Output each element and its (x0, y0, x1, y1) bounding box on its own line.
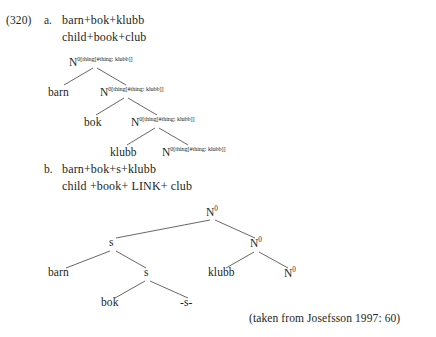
branch-a-3-left (127, 128, 155, 145)
example-item-label-b: b. (44, 163, 53, 175)
tree-a-node-2: N0[thing[#thing: klubb]] (100, 86, 164, 98)
branch-b-slow-left (115, 281, 145, 298)
example-number: (320) (6, 14, 31, 26)
branch-b-s-left (66, 251, 110, 268)
tree-a-node-4: N0[thing[#thing: klubb]] (162, 146, 226, 158)
tree-b-node-s-low: s (144, 266, 148, 278)
tree-b-leaf-bok: bok (101, 296, 119, 308)
tree-b-node-n-right: N0 (250, 236, 262, 249)
example-gloss-line-b: child +book+ LINK+ club (62, 179, 192, 194)
branch-a-2-right (128, 98, 157, 115)
tree-b-node-n-right-sup: 0 (258, 236, 262, 244)
tree-b-node-n-far-right: N0 (284, 266, 296, 279)
tree-b-node-n-far-right-sup: 0 (292, 266, 296, 274)
figure-page: (320) a. barn+bok+klubb child+book+club … (0, 0, 436, 337)
branch-a-1-left (64, 68, 93, 85)
tree-a-node-1-sup: 0[thing[#thing: klubb]] (77, 56, 132, 62)
branch-a-1-right (97, 68, 126, 85)
branch-b-root-left (116, 220, 210, 238)
tree-a-node-3: N0[thing[#thing: klubb]] (131, 116, 195, 128)
example-source-line-b: barn+bok+s+klubb (62, 162, 156, 177)
tree-b-leaf-klubb: klubb (208, 266, 235, 278)
tree-b-node-root: N0 (206, 205, 218, 218)
tree-b-node-root-sup: 0 (214, 205, 218, 213)
tree-b-leaf-s-affix: -s- (180, 296, 192, 308)
tree-a-leaf-barn: barn (48, 86, 69, 98)
tree-a-node-3-sup: 0[thing[#thing: klubb]] (139, 116, 194, 122)
branch-b-root-right (215, 220, 255, 238)
example-gloss-line-a: child+book+club (62, 30, 146, 45)
tree-b-node-s-high: s (109, 236, 113, 248)
source-citation: (taken from Josefsson 1997: 60) (249, 312, 400, 324)
tree-a-node-2-sup: 0[thing[#thing: klubb]] (108, 86, 163, 92)
example-item-label-a: a. (44, 14, 52, 26)
tree-a-leaf-bok: bok (84, 116, 102, 128)
branch-b-s-right (116, 251, 146, 268)
tree-a-node-4-sup: 0[thing[#thing: klubb]] (170, 146, 225, 152)
tree-b-leaf-barn: barn (48, 266, 69, 278)
branch-a-3-right (159, 128, 188, 145)
branch-a-2-left (96, 98, 124, 115)
example-source-line-a: barn+bok+klubb (62, 13, 144, 28)
tree-a-leaf-klubb: klubb (110, 146, 137, 158)
tree-a-node-1: N0[thing[#thing: klubb]] (69, 56, 133, 68)
